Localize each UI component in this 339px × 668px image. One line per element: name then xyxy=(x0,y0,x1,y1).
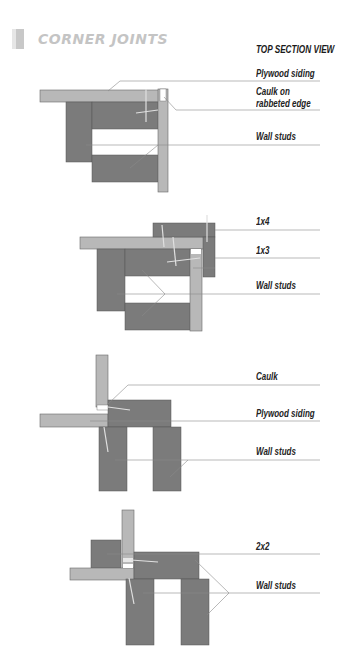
trim-1x3 xyxy=(203,237,215,277)
label-caulk-on: Caulk on xyxy=(256,86,290,98)
wall-stud xyxy=(99,427,127,491)
label-2x2: 2x2 xyxy=(256,541,269,553)
wall-stud xyxy=(108,400,171,427)
label-plywood-siding: Plywood siding xyxy=(256,408,315,420)
label-wall-studs: Wall studs xyxy=(256,446,296,458)
diagram-butt-corner xyxy=(40,355,320,491)
wall-stud xyxy=(97,249,125,311)
wall-stud xyxy=(92,102,158,129)
wall-stud xyxy=(134,552,199,579)
plywood-siding-vertical xyxy=(96,355,108,407)
diagram-nailer-corner xyxy=(70,510,320,645)
label-wall-studs: Wall studs xyxy=(256,131,296,143)
label-plywood-siding: Plywood siding xyxy=(256,68,315,80)
wall-stud xyxy=(66,102,92,162)
plywood-siding-horizontal xyxy=(40,414,108,427)
label-1x3: 1x3 xyxy=(256,245,269,257)
plywood-siding-horizontal xyxy=(80,237,205,249)
diagram-trim-corner xyxy=(80,215,320,331)
wall-stud xyxy=(153,427,181,491)
plywood-siding-horizontal xyxy=(40,90,160,102)
label-wall-studs: Wall studs xyxy=(256,580,296,592)
wall-stud xyxy=(125,303,190,330)
label-wall-studs: Wall studs xyxy=(256,280,296,292)
label-caulk: Caulk xyxy=(256,371,278,383)
wall-stud xyxy=(92,155,158,182)
label-rabbeted-edge: rabbeted edge xyxy=(256,98,311,110)
plywood-siding-vertical xyxy=(190,249,202,331)
plywood-siding-horizontal xyxy=(70,568,134,580)
wall-stud xyxy=(181,579,209,645)
wall-stud xyxy=(125,249,190,276)
plywood-siding-vertical xyxy=(158,89,168,192)
label-1x4: 1x4 xyxy=(256,216,269,228)
wall-stud xyxy=(126,579,154,645)
